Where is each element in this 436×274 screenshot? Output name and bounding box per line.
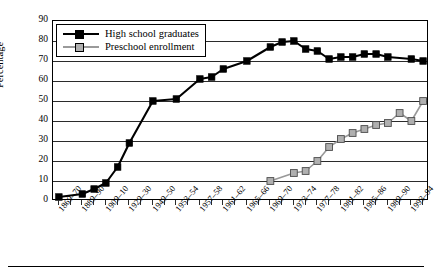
data-point-marker — [337, 136, 344, 143]
legend-item-preschool-enrollment: Preschool enrollment — [61, 40, 199, 53]
data-point-marker — [114, 164, 121, 171]
data-point-marker — [267, 44, 274, 51]
legend-item-high-school-graduates: High school graduates — [61, 27, 199, 40]
data-point-marker — [173, 96, 180, 103]
y-tick-label: 80 — [18, 35, 48, 45]
data-point-marker — [408, 118, 415, 125]
y-tick-label: 20 — [18, 155, 48, 165]
data-point-marker — [361, 51, 368, 58]
y-tick-label: 60 — [18, 75, 48, 85]
series-line — [59, 41, 423, 197]
data-point-marker — [314, 48, 321, 55]
y-tick-label: 50 — [18, 95, 48, 105]
data-point-marker — [208, 74, 215, 81]
data-point-marker — [349, 54, 356, 61]
data-point-marker — [244, 58, 251, 65]
series-preschool-enrollment — [267, 98, 427, 185]
data-point-marker — [373, 122, 380, 129]
data-point-marker — [220, 66, 227, 73]
legend-label: Preschool enrollment — [101, 41, 195, 52]
y-tick-label: 0 — [18, 195, 48, 205]
data-point-marker — [103, 180, 110, 187]
y-tick-label: 40 — [18, 115, 48, 125]
data-point-marker — [302, 46, 309, 53]
footer-rule — [8, 266, 424, 267]
data-point-marker — [197, 76, 204, 83]
data-point-marker — [420, 58, 427, 65]
data-point-marker — [384, 120, 391, 127]
data-point-marker — [290, 170, 297, 177]
data-point-marker — [326, 144, 333, 151]
y-axis-label: Percentage — [0, 42, 5, 88]
data-point-marker — [291, 38, 298, 45]
data-point-marker — [338, 54, 345, 61]
data-point-marker — [279, 39, 286, 46]
data-point-marker — [373, 51, 380, 58]
data-point-marker — [396, 110, 403, 117]
data-point-marker — [150, 98, 157, 105]
chart-legend: High school graduates Preschool enrollme… — [56, 24, 206, 57]
data-point-marker — [385, 54, 392, 61]
data-point-marker — [326, 56, 333, 63]
data-point-marker — [420, 98, 427, 105]
data-point-marker — [126, 140, 133, 147]
open-square-marker-icon — [61, 41, 101, 53]
series-high-school-graduates — [56, 38, 427, 201]
data-point-marker — [267, 178, 274, 185]
data-point-marker — [361, 126, 368, 133]
data-point-marker — [349, 130, 356, 137]
data-point-marker — [408, 56, 415, 63]
y-tick-label: 30 — [18, 135, 48, 145]
y-tick-label: 70 — [18, 55, 48, 65]
filled-square-marker-icon — [61, 28, 101, 40]
legend-label: High school graduates — [101, 28, 199, 39]
data-point-marker — [314, 158, 321, 165]
y-tick-label: 10 — [18, 175, 48, 185]
data-point-marker — [302, 168, 309, 175]
y-tick-label: 90 — [18, 15, 48, 25]
